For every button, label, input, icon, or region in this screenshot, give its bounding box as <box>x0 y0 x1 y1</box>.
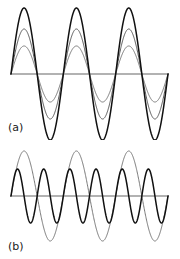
panel-a-plot <box>0 0 180 140</box>
panel-b: (b) <box>0 148 180 259</box>
panel-b-label: (b) <box>8 241 24 252</box>
panel-a: (a) <box>0 0 180 140</box>
panel-b-plot <box>0 148 180 259</box>
figure-container: (a) (b) <box>0 0 180 259</box>
panel-a-label: (a) <box>8 122 23 133</box>
